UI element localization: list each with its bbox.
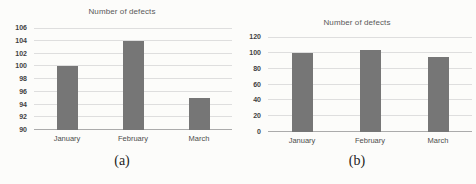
y-tick-label: 104 [6,37,27,45]
chart-title: Number of defects [240,18,474,27]
bar-march [428,57,449,132]
bar-slot [34,28,100,130]
bar-slot [268,37,336,132]
y-tick-label: 90 [6,126,27,134]
y-tick-label: 94 [6,101,27,109]
y-tick-label: 100 [6,62,27,70]
y-tick-label: 100 [240,49,261,57]
bar-slot [336,37,404,132]
y-tick-label: 80 [240,65,261,73]
bar-slot [166,28,232,130]
y-axis: 020406080100120 [240,37,265,132]
y-tick-label: 0 [240,128,261,136]
bar-slot [100,28,166,130]
bar-february [123,41,144,130]
x-axis: JanuaryFebruaryMarch [34,131,232,143]
chart-panel-b: Number of defects 020406080100120 Januar… [240,4,474,152]
x-tick-label: March [404,133,472,145]
y-tick-label: 20 [240,112,261,120]
x-tick-label: January [268,133,336,145]
x-tick-label: February [100,131,166,143]
bar-february [360,50,381,132]
bar-march [189,98,210,130]
bar-january [292,53,313,132]
y-tick-label: 120 [240,33,261,41]
y-tick-label: 92 [6,113,27,121]
y-tick-label: 102 [6,50,27,58]
y-tick-label: 96 [6,88,27,96]
plot-area [34,28,232,130]
panel-caption-a: (a) [6,153,238,169]
y-tick-label: 106 [6,24,27,32]
bar-january [57,66,78,130]
y-tick-label: 40 [240,96,261,104]
x-tick-label: March [166,131,232,143]
plot-area [268,37,472,132]
panel-caption-b: (b) [240,153,474,169]
y-tick-label: 60 [240,81,261,89]
chart-panel-a: Number of defects 9092949698100102104106… [6,4,238,152]
x-tick-label: January [34,131,100,143]
chart-title: Number of defects [6,7,238,16]
bar-slot [404,37,472,132]
x-tick-label: February [336,133,404,145]
y-tick-label: 98 [6,75,27,83]
x-axis: JanuaryFebruaryMarch [268,133,472,145]
y-axis: 9092949698100102104106 [6,28,31,130]
